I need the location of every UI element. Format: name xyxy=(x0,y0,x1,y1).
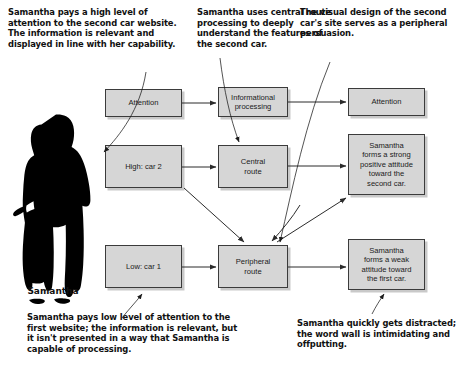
diagram-canvas: Samantha pays a high level of attention … xyxy=(0,0,472,378)
person-name-label: Samantha xyxy=(8,286,98,296)
pointer-botright-to-weak xyxy=(372,294,384,314)
node-informational-processing[interactable]: Informational processing xyxy=(218,87,288,117)
node-strong-positive-attitude[interactable]: Samantha forms a strong positive attitud… xyxy=(348,134,425,195)
caption-top-left: Samantha pays a high level of attention … xyxy=(8,7,183,49)
node-low-car-1[interactable]: Low: car 1 xyxy=(105,245,182,288)
caption-bottom-right: Samantha quickly gets distracted; the wo… xyxy=(297,318,469,350)
connector-peripheral-to-strong xyxy=(277,198,346,242)
node-attention-high[interactable]: Attention xyxy=(105,89,182,117)
node-central-route[interactable]: Central route xyxy=(218,145,288,188)
node-weak-attitude[interactable]: Samantha forms a weak attitude toward th… xyxy=(348,239,425,290)
caption-top-right: The visual design of the second car's si… xyxy=(300,7,465,39)
connector-upper-to-peripheral xyxy=(272,205,300,241)
caption-bottom-left: Samantha pays low level of attention to … xyxy=(27,312,242,354)
node-peripheral-route[interactable]: Peripheral route xyxy=(218,245,288,288)
node-high-car-2[interactable]: High: car 2 xyxy=(105,145,182,188)
node-attention-outcome[interactable]: Attention xyxy=(348,88,425,116)
connector-high-to-peripheral xyxy=(184,188,244,242)
